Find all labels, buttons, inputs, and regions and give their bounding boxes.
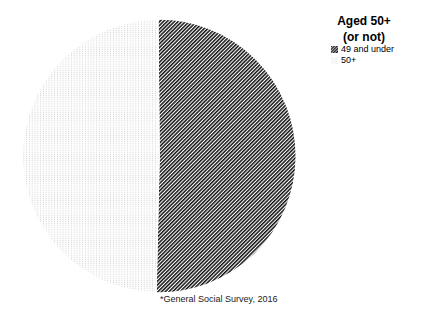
- legend-item-50-plus: 50+: [331, 57, 394, 64]
- pie-slices: [22, 19, 296, 293]
- legend-label: 49 and under: [341, 45, 394, 54]
- pie-slice-50-: [22, 19, 159, 293]
- chart-canvas: Aged 50+ (or not) 49 and under 50+ *Gene…: [0, 0, 427, 323]
- chart-title-line2: (or not): [303, 29, 425, 45]
- dots-swatch-icon: [331, 57, 338, 64]
- legend-item-49-and-under: 49 and under: [331, 46, 394, 53]
- hatch-swatch-icon: [331, 46, 338, 53]
- source-footnote: *General Social Survey, 2016: [160, 294, 277, 305]
- legend: 49 and under 50+: [331, 46, 394, 68]
- legend-label: 50+: [341, 56, 356, 65]
- chart-title: Aged 50+ (or not): [303, 13, 425, 45]
- chart-title-line1: Aged 50+: [303, 13, 425, 29]
- pie-slice-49-and-under: [156, 19, 296, 293]
